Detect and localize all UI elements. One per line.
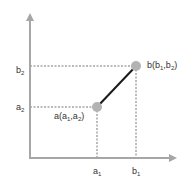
point-label-b: b(b1,b2) xyxy=(147,61,177,71)
x-tick-label-b1: b1 xyxy=(132,167,140,177)
x-axis-arrow-icon xyxy=(169,154,177,162)
y-tick-label-b2: b2 xyxy=(16,66,24,76)
y-axis-arrow-icon xyxy=(26,13,34,21)
point-b xyxy=(131,61,141,71)
point-a xyxy=(92,102,102,112)
coordinate-diagram xyxy=(0,0,187,188)
point-label-a: a(a1,a2) xyxy=(54,112,84,122)
x-tick-label-a1: a1 xyxy=(93,167,101,177)
y-tick-label-a2: a2 xyxy=(16,103,24,113)
segment-ab xyxy=(97,66,136,107)
